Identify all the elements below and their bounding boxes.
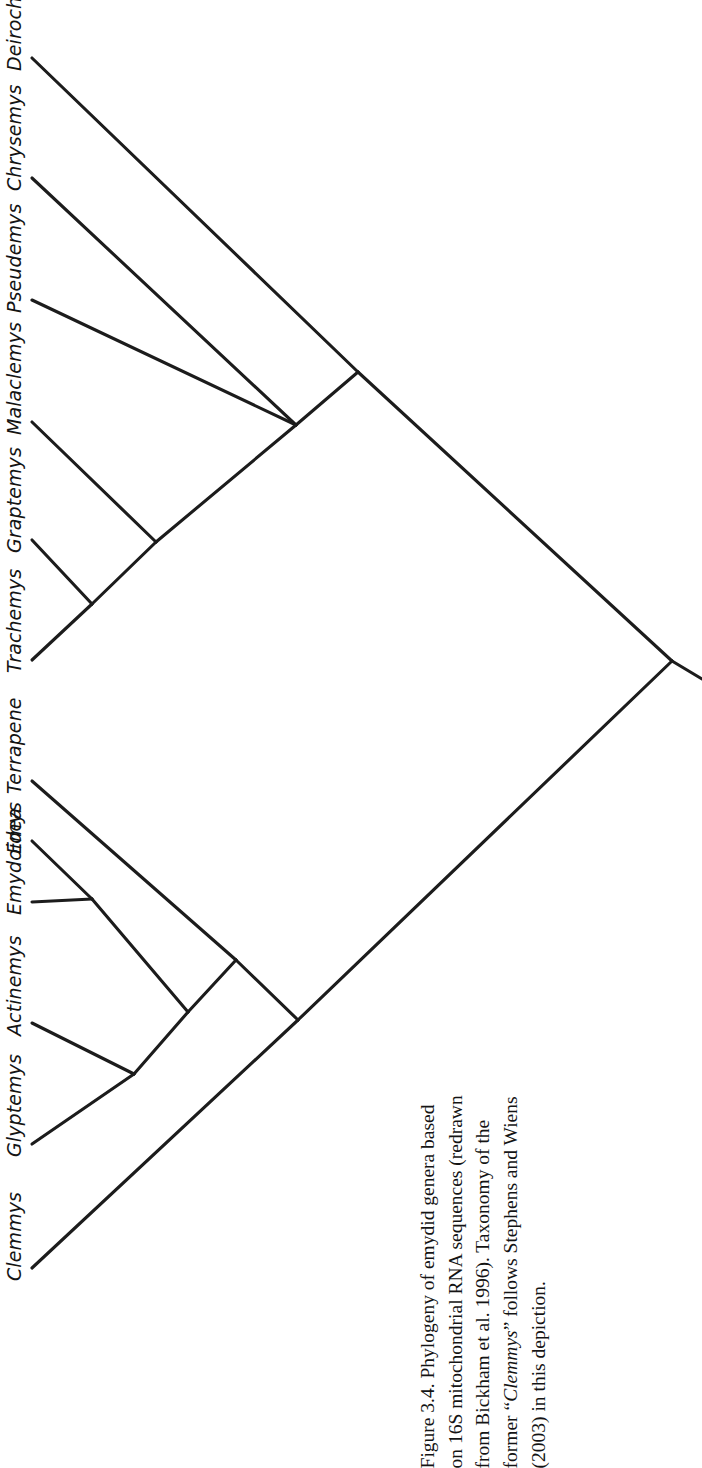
taxon-label-glyptemys: Glyptemys <box>5 1054 24 1157</box>
taxon-label-emydoidea: Emydoidea <box>5 808 24 915</box>
caption-line-5: (2003) in this depiction. <box>524 1128 552 1468</box>
tree-branch-node-emys-emydoidea-to-emydoidea <box>32 899 92 902</box>
taxon-label-malaclemys: Malaclemys <box>5 322 24 435</box>
tree-branch-node-chrysemys-clade-to-pseudemys <box>32 300 296 425</box>
tree-branch-group <box>32 58 702 1268</box>
caption-line-3: from Bickham et al. 1996). Taxonomy of t… <box>469 1128 497 1468</box>
tree-branch-node-terrapene-clade-to-node-emys-clade <box>188 960 236 1012</box>
tree-branch-node-emydinae-to-node-terrapene-clade <box>236 960 298 1020</box>
tree-branch-node-emys-clade-to-node-actinemys-glyptemys <box>134 1012 188 1074</box>
taxon-label-actinemys: Actinemys <box>5 936 24 1036</box>
tree-branch-node-emydinae-to-clemmys <box>32 1020 298 1268</box>
tree-branch-node-chrysemys-clade-to-chrysemys <box>32 178 296 425</box>
caption-line-2: on 16S mitochondrial RNA sequences (redr… <box>441 1128 469 1468</box>
tree-branch-node-malaclemys-clade-to-malaclemys <box>32 422 156 542</box>
caption-line-1: Figure 3.4. Phylogeny of emydid genera b… <box>414 1128 442 1468</box>
tree-branch-node-malaclemys-clade-to-node-graptemys-trachemys <box>92 542 156 604</box>
figure-caption: Figure 3.4. Phylogeny of emydid genera b… <box>414 1128 552 1468</box>
caption-line-4: former “Clemmys” follows Stephens and Wi… <box>497 1128 525 1468</box>
tree-branch-node-root-to-node-emydinae <box>298 661 672 1020</box>
tree-branch-node-deirochelyinae-to-node-chrysemys-clade <box>296 372 358 425</box>
tree-root-stem <box>672 661 702 679</box>
tree-branch-node-emys-clade-to-node-emys-emydoidea <box>92 899 188 1012</box>
tree-branch-node-graptemys-trachemys-to-trachemys <box>32 604 92 660</box>
tree-branch-node-actinemys-glyptemys-to-glyptemys <box>32 1074 134 1144</box>
tree-branch-node-deirochelyinae-to-deirochelys <box>32 58 358 372</box>
tree-branch-node-actinemys-glyptemys-to-actinemys <box>32 1023 134 1074</box>
taxon-label-pseudemys: Pseudemys <box>5 204 24 313</box>
tree-branch-node-chrysemys-clade-to-node-malaclemys-clade <box>156 425 296 542</box>
taxon-label-graptemys: Graptemys <box>5 447 24 553</box>
taxon-label-chrysemys: Chrysemys <box>5 84 24 191</box>
taxon-label-clemmys: Clemmys <box>5 1192 24 1281</box>
taxon-label-terrapene: Terrapene <box>5 697 24 794</box>
tree-branch-node-emys-emydoidea-to-emys <box>32 841 92 899</box>
tree-branch-node-root-to-node-deirochelyinae <box>358 372 672 661</box>
caption-italic-genus: Clemmys <box>500 1330 521 1402</box>
taxon-label-deirochelys: Deirochelys <box>5 0 24 71</box>
tree-branch-node-graptemys-trachemys-to-graptemys <box>32 540 92 604</box>
taxon-label-trachemys: Trachemys <box>5 569 24 673</box>
